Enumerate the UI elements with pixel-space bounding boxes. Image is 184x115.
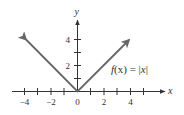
x-tick-label: −4 — [20, 97, 30, 107]
function-close: | — [146, 63, 148, 75]
x-tick-label: 0 — [75, 97, 80, 107]
x-axis-label: x — [167, 85, 173, 96]
absolute-value-graph: −4 −2 0 2 4 2 4 x y f(x) = |x| — [0, 0, 184, 115]
x-tick-label: −2 — [46, 97, 56, 107]
x-tick-label: 4 — [128, 97, 133, 107]
y-axis-label: y — [74, 6, 80, 17]
y-tick-label: 4 — [66, 35, 71, 45]
y-tick-label: 2 — [66, 61, 71, 71]
x-tick-label: 2 — [102, 97, 107, 107]
function-label: f(x) = |x| — [111, 63, 148, 76]
function-arg: (x) = | — [114, 63, 141, 76]
